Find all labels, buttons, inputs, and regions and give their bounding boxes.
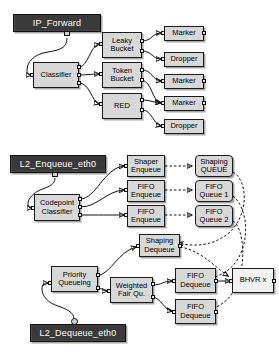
node-codepoint-classifier[interactable]: Codepoint Classifier [34, 194, 80, 221]
port-leaky-bucket-out-2[interactable] [140, 49, 144, 53]
node-label: FIFO Queue 2 [199, 208, 230, 225]
port-codepoint-classifier-out-1[interactable] [78, 197, 82, 201]
node-red[interactable]: RED [102, 93, 142, 119]
port-priority-queueing-out-2[interactable] [96, 286, 100, 290]
node-label: Weighted Fair Qu. [115, 282, 149, 299]
port-shaper-enqueue-in[interactable] [124, 164, 128, 168]
port-marker-1-in[interactable] [161, 31, 165, 35]
port-classifier-out-1[interactable] [77, 65, 81, 69]
port-fifo-dequeue-1-out[interactable] [214, 279, 218, 283]
port-red-out-1[interactable] [140, 98, 144, 102]
port-weighted-fair-qu-out-2[interactable] [151, 295, 155, 299]
node-label: Token Bucket [110, 67, 135, 84]
port-dropper-1-in[interactable] [161, 57, 165, 61]
node-label: Codepoint Classifier [39, 199, 75, 216]
port-marker-2-out[interactable] [202, 79, 206, 83]
port-leaky-bucket-out-1[interactable] [140, 39, 144, 43]
node-label: Shaping Dequeue [143, 237, 175, 254]
port-red-out-2[interactable] [140, 108, 144, 112]
port-shaping-dequeue-in[interactable] [136, 244, 140, 248]
node-label: Dropper [169, 55, 198, 64]
port-fifo-dequeue-2-out[interactable] [214, 310, 218, 314]
port-classifier-out-3[interactable] [77, 81, 81, 85]
node-bhvr[interactable]: BHVR x [232, 268, 274, 293]
port-red-in[interactable] [99, 102, 103, 106]
port-marker-1-out[interactable] [202, 31, 206, 35]
titlebar-ip-forward[interactable]: IP_Forward [13, 14, 101, 32]
port-classifier-out-2[interactable] [77, 73, 81, 77]
port-bhvr-out[interactable] [272, 279, 276, 283]
node-label: FIFO Enqueue [130, 208, 162, 225]
node-marker-2[interactable]: Marker [164, 74, 204, 89]
node-shaping-queue[interactable]: Shaping QUEUE [195, 155, 233, 177]
port-ip-forward-out[interactable] [64, 31, 70, 36]
node-label: Shaping QUEUE [199, 158, 229, 175]
node-dropper-2[interactable]: Dropper [164, 119, 204, 134]
node-label: RED [113, 102, 131, 111]
node-fifo-dequeue-2[interactable]: FIFO Dequeue [175, 299, 216, 324]
port-dropper-2-in[interactable] [161, 124, 165, 128]
port-marker-2-in[interactable] [161, 79, 165, 83]
port-l2-dequeue-in[interactable] [71, 318, 78, 325]
node-marker-3[interactable]: Marker [164, 96, 204, 111]
node-label: FIFO Queue 1 [199, 183, 230, 200]
node-token-bucket[interactable]: Token Bucket [102, 62, 142, 88]
node-label: FIFO Enqueue [130, 183, 162, 200]
node-dropper-1[interactable]: Dropper [164, 52, 204, 67]
node-weighted-fair-qu[interactable]: Weighted Fair Qu. [110, 277, 153, 303]
port-token-bucket-in[interactable] [99, 72, 103, 76]
node-label: Priority Queueing [57, 271, 92, 288]
port-fifo-dequeue-2-in[interactable] [172, 310, 176, 314]
port-marker-3-in[interactable] [161, 101, 165, 105]
node-leaky-bucket[interactable]: Leaky Bucket [102, 32, 142, 58]
node-label: Leaky Bucket [110, 37, 135, 54]
node-label: Shaper Enqueue [130, 158, 162, 175]
port-token-bucket-out-1[interactable] [140, 68, 144, 72]
node-fifo-enqueue-1[interactable]: FIFO Enqueue [127, 180, 165, 202]
node-label: Classifier [40, 71, 73, 80]
node-fifo-queue-1[interactable]: FIFO Queue 1 [195, 180, 233, 202]
node-fifo-enqueue-2[interactable]: FIFO Enqueue [127, 205, 165, 227]
port-codepoint-classifier-in[interactable] [31, 206, 35, 210]
node-label: BHVR x [239, 276, 268, 285]
port-codepoint-classifier-out-2[interactable] [78, 205, 82, 209]
port-priority-queueing-in[interactable] [48, 281, 52, 285]
titlebar-label: IP_Forward [33, 18, 82, 28]
port-codepoint-classifier-out-3[interactable] [78, 213, 82, 217]
port-fifo-enqueue-1-in[interactable] [124, 188, 128, 192]
port-weighted-fair-qu-in[interactable] [107, 289, 111, 293]
titlebar-l2-dequeue-eth0[interactable]: L2_Dequeue_eth0 [30, 324, 126, 342]
port-leaky-bucket-in[interactable] [99, 42, 103, 46]
node-label: Dropper [169, 122, 198, 131]
diagram-canvas: IP_Forward L2_Enqueue_eth0 L2_Dequeue_et… [0, 0, 279, 355]
node-fifo-queue-2[interactable]: FIFO Queue 2 [195, 205, 233, 227]
node-marker-1[interactable]: Marker [164, 26, 204, 41]
port-shaping-dequeue-out[interactable] [178, 244, 182, 248]
node-label: FIFO Dequeue [179, 272, 211, 289]
node-label: Marker [171, 99, 196, 108]
titlebar-label: L2_Enqueue_eth0 [20, 159, 97, 169]
node-shaping-dequeue[interactable]: Shaping Dequeue [139, 234, 180, 257]
port-fifo-dequeue-1-in[interactable] [172, 279, 176, 283]
node-label: FIFO Dequeue [179, 303, 211, 320]
node-label: Marker [171, 29, 196, 38]
port-classifier-in[interactable] [30, 73, 34, 77]
node-fifo-dequeue-1[interactable]: FIFO Dequeue [175, 268, 216, 293]
port-marker-3-out[interactable] [202, 101, 206, 105]
port-weighted-fair-qu-out-1[interactable] [151, 282, 155, 286]
node-priority-queueing[interactable]: Priority Queueing [51, 266, 98, 292]
port-priority-queueing-out-1[interactable] [96, 273, 100, 277]
node-label: Marker [171, 77, 196, 86]
port-l2-enqueue-out[interactable] [52, 172, 58, 177]
node-classifier[interactable]: Classifier [33, 62, 79, 88]
titlebar-l2-enqueue-eth0[interactable]: L2_Enqueue_eth0 [10, 155, 106, 173]
port-fifo-enqueue-2-in[interactable] [124, 213, 128, 217]
titlebar-label: L2_Dequeue_eth0 [39, 328, 116, 338]
port-token-bucket-out-2[interactable] [140, 78, 144, 82]
node-shaper-enqueue[interactable]: Shaper Enqueue [127, 155, 165, 177]
port-bhvr-in[interactable] [229, 279, 233, 283]
